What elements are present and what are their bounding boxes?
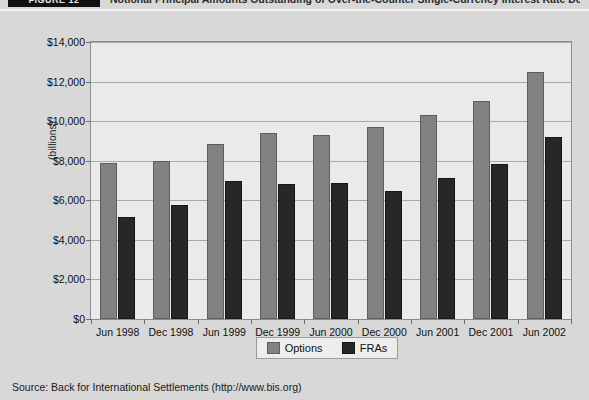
bar-group xyxy=(358,42,411,319)
bar-options-dec-2001 xyxy=(473,101,490,319)
source-note: Source: Back for International Settlemen… xyxy=(12,381,301,393)
x-axis-tick-mark xyxy=(91,319,92,324)
bar-fras-dec-1998 xyxy=(171,205,188,319)
x-axis-label: Dec 2001 xyxy=(464,326,517,338)
y-axis-tick-label: $14,000 xyxy=(27,36,85,48)
x-axis-tick-mark xyxy=(571,319,572,324)
bar-fras-dec-2001 xyxy=(491,164,508,319)
bar-fras-jun-1999 xyxy=(225,181,242,320)
legend-swatch-icon-fras xyxy=(342,342,355,354)
chart-legend: Options FRAs xyxy=(256,337,398,359)
y-axis-tick-label: $2,000 xyxy=(27,273,85,285)
bar-group xyxy=(518,42,571,319)
bar-options-jun-2001 xyxy=(420,115,437,319)
plot-area: (billions) $0$2,000$4,000$6,000$8,000$10… xyxy=(90,41,572,320)
bar-fras-dec-1999 xyxy=(278,184,295,319)
bar-options-dec-2000 xyxy=(367,127,384,319)
x-axis-label: Jun 1998 xyxy=(91,326,144,338)
x-axis-label: Jun 1999 xyxy=(198,326,251,338)
x-axis-tick-mark xyxy=(144,319,145,324)
y-axis-tick-label: $8,000 xyxy=(27,155,85,167)
bar-fras-jun-2002 xyxy=(545,137,562,319)
x-axis-tick-mark xyxy=(251,319,252,324)
bar-group xyxy=(144,42,197,319)
figure-header: FIGURE 12 Notional Principal Amounts Out… xyxy=(0,0,589,9)
bar-group xyxy=(251,42,304,319)
bar-fras-jun-2001 xyxy=(438,178,455,319)
x-axis-tick-mark xyxy=(464,319,465,324)
x-axis-tick-mark xyxy=(304,319,305,324)
bar-fras-jun-1998 xyxy=(118,217,135,319)
bar-group xyxy=(304,42,357,319)
legend-label-options: Options xyxy=(285,342,323,354)
figure-title: Notional Principal Amounts Outstanding o… xyxy=(110,0,580,6)
x-axis-tick-mark xyxy=(518,319,519,324)
x-axis-tick-mark xyxy=(411,319,412,324)
figure-number-tag: FIGURE 12 xyxy=(8,0,100,7)
x-axis-label: Dec 1998 xyxy=(144,326,197,338)
bar-fras-dec-2000 xyxy=(385,191,402,319)
bar-group xyxy=(464,42,517,319)
legend-label-fras: FRAs xyxy=(360,342,388,354)
header-divider xyxy=(0,9,589,11)
x-axis-tick-mark xyxy=(358,319,359,324)
bar-series-container xyxy=(91,42,571,319)
bar-options-dec-1999 xyxy=(260,133,277,319)
y-axis-tick-label: $4,000 xyxy=(27,234,85,246)
bar-group xyxy=(411,42,464,319)
y-axis-tick-label: $12,000 xyxy=(27,76,85,88)
bar-options-jun-2002 xyxy=(527,72,544,319)
y-axis-title: (billions) xyxy=(47,40,58,160)
y-axis-tick-label: $0 xyxy=(27,313,85,325)
y-axis-tick-label: $10,000 xyxy=(27,115,85,127)
bar-options-dec-1998 xyxy=(153,161,170,319)
y-axis-tick-label: $6,000 xyxy=(27,194,85,206)
bar-fras-jun-2000 xyxy=(331,183,348,319)
x-axis-tick-mark xyxy=(198,319,199,324)
legend-item-options: Options xyxy=(267,342,323,354)
x-axis-label: Jun 2002 xyxy=(518,326,571,338)
bar-options-jun-1999 xyxy=(207,144,224,319)
legend-item-fras: FRAs xyxy=(342,342,388,354)
bar-group xyxy=(91,42,144,319)
bar-chart: (billions) $0$2,000$4,000$6,000$8,000$10… xyxy=(0,14,589,374)
bar-options-jun-2000 xyxy=(313,135,330,319)
legend-swatch-icon-options xyxy=(267,342,280,354)
bar-group xyxy=(198,42,251,319)
bar-options-jun-1998 xyxy=(100,163,117,319)
x-axis-label: Jun 2001 xyxy=(411,326,464,338)
